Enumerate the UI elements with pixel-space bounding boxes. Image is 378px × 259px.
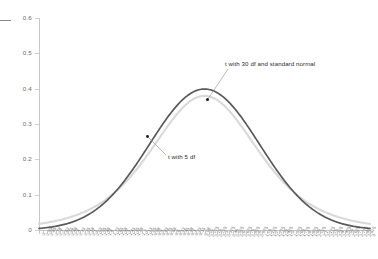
curve-t-30df-and-normal xyxy=(39,89,370,228)
leader-dot-normal xyxy=(206,98,209,101)
curve-layer xyxy=(0,0,378,259)
curve-t-5df xyxy=(39,96,370,224)
leader-dot-t5 xyxy=(146,135,149,138)
annotation-normal-label: t with 30 df and standard normal xyxy=(225,60,315,67)
annotation-t5-label: t with 5 df xyxy=(168,153,195,160)
density-chart: 00.10.20.30.40.50.6 -3-2.93-2.85-2.78-2.… xyxy=(0,0,378,259)
leader-line-normal xyxy=(208,69,228,99)
